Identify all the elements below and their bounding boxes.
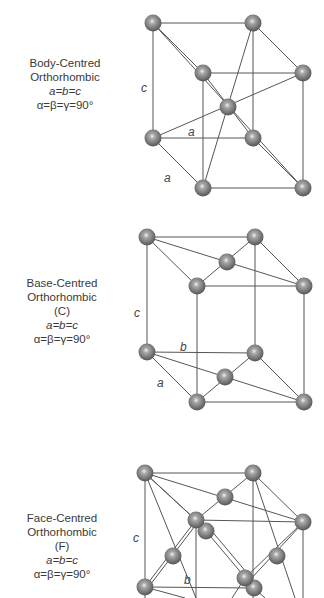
lattice-diagrams: c a a c b a [0, 0, 324, 598]
axis-label-a: a [188, 125, 195, 139]
face-centred-atoms [137, 465, 312, 597]
axis-label-c: c [133, 531, 139, 545]
base-centred-atoms [139, 229, 313, 411]
axis-label-b: b [184, 573, 191, 587]
axis-label-b: b [180, 340, 187, 354]
axis-label-c: c [141, 81, 147, 95]
axis-label-c: c [134, 306, 140, 320]
axis-label-a: a [157, 376, 164, 390]
axis-label-a: a [164, 171, 171, 185]
